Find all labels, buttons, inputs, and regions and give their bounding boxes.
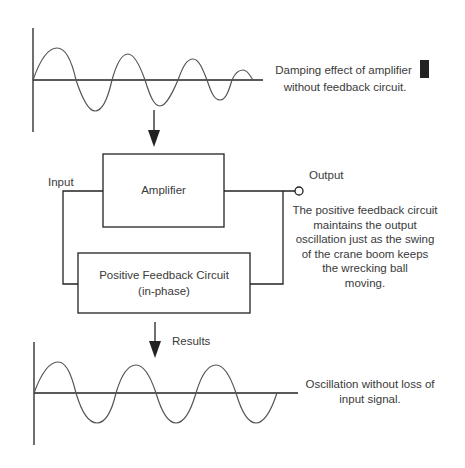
- damped-wave-graph: [33, 28, 263, 132]
- output-label: Output: [309, 168, 344, 182]
- feedback-label-line1: Positive Feedback Circuit: [78, 268, 250, 282]
- results-label: Results: [172, 334, 210, 348]
- black-marker-icon: [420, 60, 429, 78]
- explanation-line: The positive feedback circuit: [285, 203, 445, 218]
- explanation-line: the wrecking ball: [285, 261, 445, 276]
- amplifier-label: Amplifier: [103, 183, 224, 197]
- damping-caption-line1: Damping effect of amplifier: [275, 64, 412, 76]
- output-terminal-icon: [295, 187, 303, 195]
- input-label: Input: [48, 175, 74, 189]
- explanation-line: maintains the output: [285, 218, 445, 233]
- oscillation-caption-line1: Oscillation without loss of: [300, 377, 440, 392]
- sustained-wave-graph: [34, 342, 298, 445]
- feedback-label-line2: (in-phase): [78, 284, 250, 298]
- feedback-return-wire: [250, 191, 283, 284]
- damping-caption: Damping effect of amplifier without feed…: [272, 62, 432, 95]
- oscillation-caption-line2: input signal.: [300, 392, 440, 407]
- oscillation-caption: Oscillation without loss of input signal…: [300, 377, 440, 406]
- damping-caption-line2: without feedback circuit.: [272, 80, 418, 95]
- explanation-line: of the crane boom keeps: [285, 247, 445, 262]
- down-arrow-2: [149, 322, 161, 358]
- feedback-circuit-box: [78, 253, 250, 313]
- explanation-line: oscillation just as the swing: [285, 232, 445, 247]
- down-arrow-1: [148, 110, 160, 147]
- explanation-line: moving.: [285, 276, 445, 291]
- feedback-explanation: The positive feedback circuit maintains …: [285, 203, 445, 290]
